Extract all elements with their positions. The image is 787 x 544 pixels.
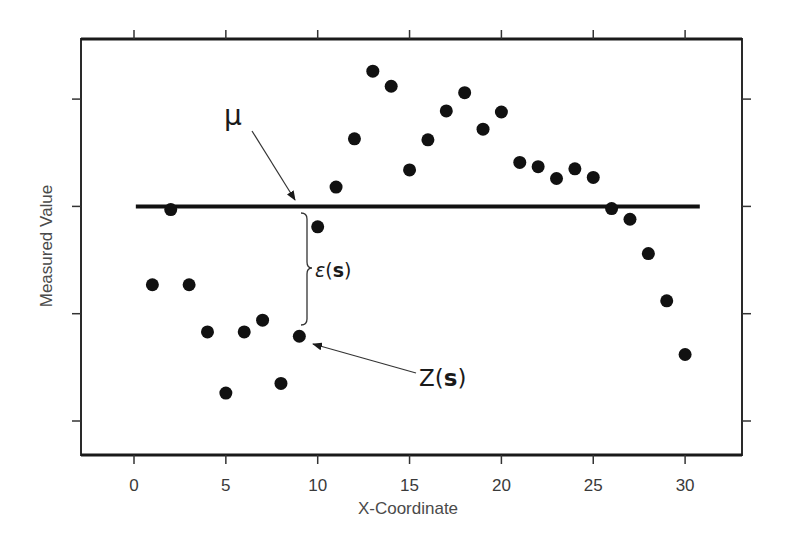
data-point	[477, 123, 490, 136]
data-point	[679, 348, 692, 361]
epsilon-label: ε(s)	[315, 259, 351, 281]
data-point	[366, 65, 379, 78]
data-point	[201, 325, 214, 338]
data-point	[532, 160, 545, 173]
x-tick-label: 15	[400, 476, 419, 495]
x-tick-label: 5	[221, 476, 230, 495]
data-point	[385, 80, 398, 93]
data-point	[550, 172, 563, 185]
y-axis-ticks	[72, 99, 81, 421]
data-point	[440, 104, 453, 117]
x-axis-tick-labels: 051015202530	[129, 476, 694, 495]
data-point	[183, 278, 196, 291]
plot-frame	[81, 39, 742, 455]
data-point	[293, 330, 306, 343]
data-point	[623, 213, 636, 226]
scatter-chart: 051015202530 μ ε(s) Z(s) X-Coordinate Me…	[0, 0, 787, 544]
data-point	[513, 156, 526, 169]
x-tick-label: 0	[129, 476, 138, 495]
y-axis-title: Measured Value	[37, 185, 56, 308]
data-point	[274, 377, 287, 390]
data-point	[164, 203, 177, 216]
x-axis-title: X-Coordinate	[358, 499, 458, 518]
data-point	[146, 278, 159, 291]
z-label: Z(s)	[419, 365, 466, 391]
data-point	[330, 181, 343, 194]
data-point	[458, 86, 471, 99]
mu-label: μ	[224, 99, 242, 132]
data-point	[421, 133, 434, 146]
y-axis-right-ticks	[742, 99, 751, 421]
data-point	[311, 220, 324, 233]
x-tick-label: 30	[676, 476, 695, 495]
x-tick-label: 20	[492, 476, 511, 495]
x-tick-label: 25	[584, 476, 603, 495]
data-point	[238, 325, 251, 338]
data-point	[256, 314, 269, 327]
data-point	[605, 202, 618, 215]
data-point	[219, 387, 232, 400]
data-point	[642, 247, 655, 260]
x-tick-label: 10	[308, 476, 327, 495]
data-point	[568, 162, 581, 175]
data-point	[587, 171, 600, 184]
data-point	[348, 132, 361, 145]
data-point	[403, 163, 416, 176]
data-point	[495, 105, 508, 118]
data-point	[660, 294, 673, 307]
